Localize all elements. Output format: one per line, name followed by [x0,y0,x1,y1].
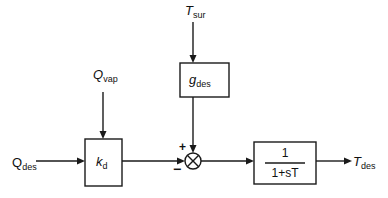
output-arrowhead [344,158,352,165]
minus-sign: − [173,161,181,177]
q-vap-label: Qvap [93,67,118,84]
transfer-numerator: 1 [282,146,289,160]
t-sur-arrowhead [190,55,197,63]
plus-sign: + [179,140,186,154]
summing-junction [185,153,201,169]
t-des-label: Tdes [353,154,376,171]
q-des-label: Qdes [12,155,37,172]
q-vap-arrowhead [100,131,107,139]
gdes-to-sum-arrowhead [190,145,197,153]
sum-to-transfer-arrowhead [246,158,254,165]
t-sur-label: Tsur [185,3,205,20]
q-des-arrowhead [77,158,85,165]
transfer-denominator: 1+sT [271,166,299,180]
block-diagram: Qdes Qvap kd Tsur gdes + − 1 1+sT Tdes [0,0,388,198]
